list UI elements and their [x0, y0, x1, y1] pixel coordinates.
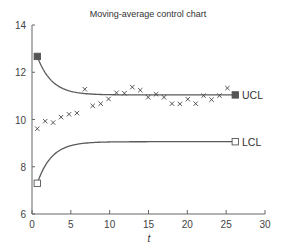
- data-point-x-marker: [67, 112, 71, 116]
- control-chart: Moving-average control chart 68101214 05…: [0, 0, 284, 249]
- data-point-x-marker: [75, 111, 79, 115]
- data-point-x-marker: [59, 115, 63, 119]
- ucl-start-marker: [34, 53, 40, 59]
- y-tick-label: 10: [15, 115, 27, 126]
- x-ticks: 051015202530: [29, 210, 271, 230]
- data-point-x-marker: [217, 93, 221, 97]
- data-point-x-marker: [83, 87, 87, 91]
- data-point-x-marker: [154, 92, 158, 96]
- y-tick-label: 6: [20, 209, 26, 220]
- data-point-x-marker: [209, 97, 213, 101]
- data-point-x-marker: [43, 119, 47, 123]
- data-point-x-marker: [98, 101, 102, 105]
- ucl-end-marker: [232, 92, 238, 98]
- data-point-x-marker: [178, 102, 182, 106]
- data-point-x-marker: [130, 85, 134, 89]
- data-point-x-marker: [170, 101, 174, 105]
- data-point-x-marker: [51, 120, 55, 124]
- y-tick-label: 12: [15, 67, 27, 78]
- x-tick-label: 0: [29, 219, 35, 230]
- data-point-x-marker: [106, 97, 110, 101]
- data-point-x-marker: [225, 86, 229, 90]
- x-tick-label: 20: [182, 219, 194, 230]
- x-tick-label: 30: [259, 219, 271, 230]
- x-tick-label: 10: [104, 219, 116, 230]
- data-point-x-marker: [138, 88, 142, 92]
- data-point-x-marker: [201, 93, 205, 97]
- y-tick-label: 14: [15, 20, 27, 31]
- control-limits: [34, 53, 238, 186]
- lcl-end-marker: [232, 139, 238, 145]
- data-point-x-marker: [35, 127, 39, 131]
- x-tick-label: 5: [68, 219, 74, 230]
- lcl-label: LCL: [242, 136, 261, 148]
- x-tick-label: 25: [221, 219, 233, 230]
- ucl-label: UCL: [242, 89, 263, 101]
- data-point-x-marker: [91, 104, 95, 108]
- ucl-curve: [37, 56, 235, 95]
- data-point-x-marker: [162, 95, 166, 99]
- data-points: [35, 85, 229, 131]
- data-point-x-marker: [186, 97, 190, 101]
- axes: 68101214 051015202530: [15, 20, 271, 230]
- chart-title: Moving-average control chart: [90, 9, 207, 19]
- data-point-x-marker: [194, 101, 198, 105]
- lcl-curve: [37, 142, 235, 184]
- data-point-x-marker: [146, 95, 150, 99]
- lcl-start-marker: [34, 180, 40, 186]
- y-tick-label: 8: [20, 162, 26, 173]
- x-axis-label: t: [148, 233, 152, 244]
- x-tick-label: 15: [143, 219, 155, 230]
